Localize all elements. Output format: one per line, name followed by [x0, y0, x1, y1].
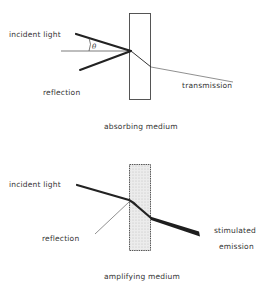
stimulated-emission-beam — [150, 217, 200, 237]
amplifying-panel — [77, 165, 200, 251]
transmission-label: transmission — [182, 81, 232, 90]
theta-symbol: θ — [92, 43, 97, 51]
incident-light-label: incident light — [9, 30, 61, 39]
reflection-label-amplifying: reflection — [42, 234, 79, 243]
angle-arc-icon — [89, 38, 91, 51]
reflected-ray — [80, 51, 131, 70]
absorbing-medium-slab — [130, 14, 151, 100]
amplifying-medium-caption: amplifying medium — [104, 272, 180, 281]
incident-ray — [76, 34, 131, 51]
stimulated-label: stimulated — [214, 226, 256, 235]
transmission-ray-out — [151, 67, 233, 82]
reflection-line — [95, 202, 129, 234]
emission-label: emission — [219, 242, 254, 251]
diagram-canvas: θ — [0, 0, 260, 281]
incident-light-label-amplifying: incident light — [9, 180, 61, 189]
absorbing-medium-caption: absorbing medium — [104, 122, 178, 131]
reflection-label: reflection — [43, 88, 80, 97]
